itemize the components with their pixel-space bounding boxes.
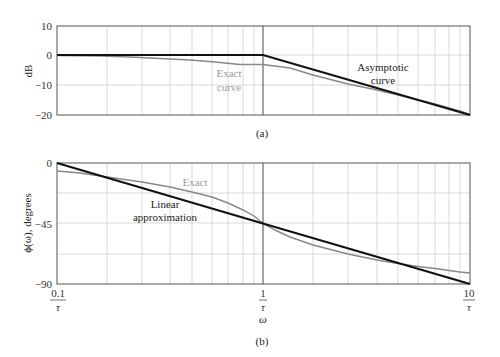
phase-y-tick-0: 0 <box>47 157 53 169</box>
x-tick-denominator: τ <box>261 301 266 313</box>
x-tick-numerator: 10 <box>464 287 476 299</box>
linear-approx-label-line2: approximation <box>133 211 198 223</box>
x-axis-label-omega: ω <box>259 313 267 325</box>
x-tick-denominator: τ <box>467 301 472 313</box>
phase-y-label: ϕ(ω), degrees <box>21 193 34 252</box>
x-tick-1-over-tau: 1 τ <box>259 287 267 313</box>
y-tick-minus10: −10 <box>35 79 53 91</box>
y-tick-10: 10 <box>41 20 53 32</box>
exact-curve-label-line2: curve <box>217 81 242 93</box>
linear-approx-label-line1: Linear <box>151 198 180 210</box>
exact-curve-label-line1: Exact <box>216 67 241 79</box>
phase-plot: 0 −45 −90 ϕ(ω), degrees Exact Linear app… <box>21 157 475 348</box>
magnitude-plot: 10 0 −10 −20 dB Exact curve Asymptotic c… <box>22 20 470 141</box>
magnitude-y-label: dB <box>22 65 34 78</box>
asymptotic-curve-label-line2: curve <box>371 74 396 86</box>
phase-y-tick-minus45: −45 <box>35 218 53 230</box>
phase-y-tick-minus90: −90 <box>35 278 53 290</box>
asymptotic-curve-label-line1: Asymptotic <box>357 61 408 73</box>
x-tick-denominator: τ <box>56 301 61 313</box>
panel-b-caption: (b) <box>256 335 269 348</box>
y-tick-minus20: −20 <box>35 109 53 121</box>
x-tick-10-over-tau: 10 τ <box>463 287 475 313</box>
x-tick-numerator: 0.1 <box>51 287 65 299</box>
panel-a-caption: (a) <box>256 127 269 140</box>
x-tick-0.1-over-tau: 0.1 τ <box>50 287 66 313</box>
bode-plot-figure: 10 0 −10 −20 dB Exact curve Asymptotic c… <box>0 0 500 357</box>
exact-label: Exact <box>182 176 207 188</box>
x-tick-numerator: 1 <box>260 287 266 299</box>
y-tick-0: 0 <box>47 49 53 61</box>
